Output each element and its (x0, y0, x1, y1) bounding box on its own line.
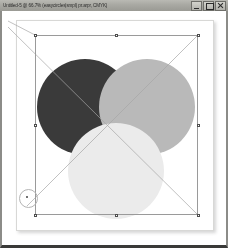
handle-middle-left[interactable] (34, 124, 37, 127)
artwork-layer (2, 11, 226, 245)
maximize-button[interactable] (203, 1, 214, 11)
circle-light[interactable] (68, 123, 164, 219)
canvas-scroll-area[interactable] (2, 11, 226, 245)
handle-middle-right[interactable] (197, 124, 200, 127)
close-icon[interactable] (215, 1, 226, 11)
handle-top-right[interactable] (197, 34, 200, 37)
anchor-point-icon (26, 196, 28, 198)
window-controls (191, 1, 228, 11)
handle-bottom-left[interactable] (34, 214, 37, 217)
minimize-button[interactable] (191, 1, 202, 11)
window-title: Untitled-5 @ 66.7% (easycircles|smpl) pr… (0, 3, 191, 9)
handle-top-left[interactable] (34, 34, 37, 37)
handle-bottom-right[interactable] (197, 214, 200, 217)
handle-bottom-center[interactable] (115, 214, 118, 217)
illustrator-window: Untitled-5 @ 66.7% (easycircles|smpl) pr… (0, 0, 228, 248)
handle-top-center[interactable] (115, 34, 118, 37)
rotate-cursor-icon (19, 189, 38, 208)
document-frame (0, 11, 228, 248)
